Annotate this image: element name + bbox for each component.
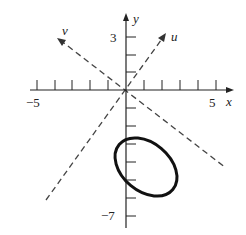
x-tick-label-min: −5	[26, 96, 40, 109]
v-axis	[60, 40, 226, 168]
y-tick-label-max: 3	[110, 31, 117, 44]
x-tick-label-max: 5	[209, 96, 216, 109]
ellipse	[104, 126, 188, 208]
y-arrow-icon	[123, 13, 129, 21]
u-axis	[46, 36, 164, 200]
coordinate-plot	[0, 0, 246, 235]
x-axis-label: x	[226, 95, 232, 108]
x-arrow-icon	[226, 87, 234, 93]
v-axis-label: v	[62, 24, 68, 37]
y-tick-label-min: −7	[101, 209, 115, 222]
figure: y 3 −7 −5 5 x u v	[0, 0, 246, 235]
v-arrow-icon	[57, 38, 66, 46]
u-arrow-icon	[158, 33, 166, 42]
u-axis-label: u	[171, 30, 178, 43]
y-axis-label: y	[133, 12, 139, 25]
